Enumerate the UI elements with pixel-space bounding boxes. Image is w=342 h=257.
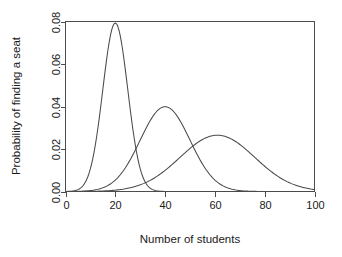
y-tick-label: 0.08	[50, 12, 62, 33]
probability-density-chart: 020406080100 0.000.020.040.060.08 Number…	[0, 0, 342, 257]
x-axis-title: Number of students	[140, 233, 241, 245]
x-tick-label: 20	[109, 199, 121, 211]
x-tick-label: 60	[209, 199, 221, 211]
x-tick-label: 40	[159, 199, 171, 211]
x-tick-label: 0	[63, 199, 69, 211]
x-tick-label: 80	[259, 199, 271, 211]
x-tick-label: 100	[306, 199, 324, 211]
y-tick-label: 0.06	[50, 54, 62, 75]
chart-background	[0, 0, 342, 257]
y-tick-label: 0.04	[50, 97, 62, 118]
y-tick-label: 0.02	[50, 139, 62, 160]
y-tick-label: 0.00	[50, 182, 62, 203]
chart-figure-root: 020406080100 0.000.020.040.060.08 Number…	[0, 0, 342, 257]
y-axis-title: Probability of finding a seat	[10, 36, 22, 175]
